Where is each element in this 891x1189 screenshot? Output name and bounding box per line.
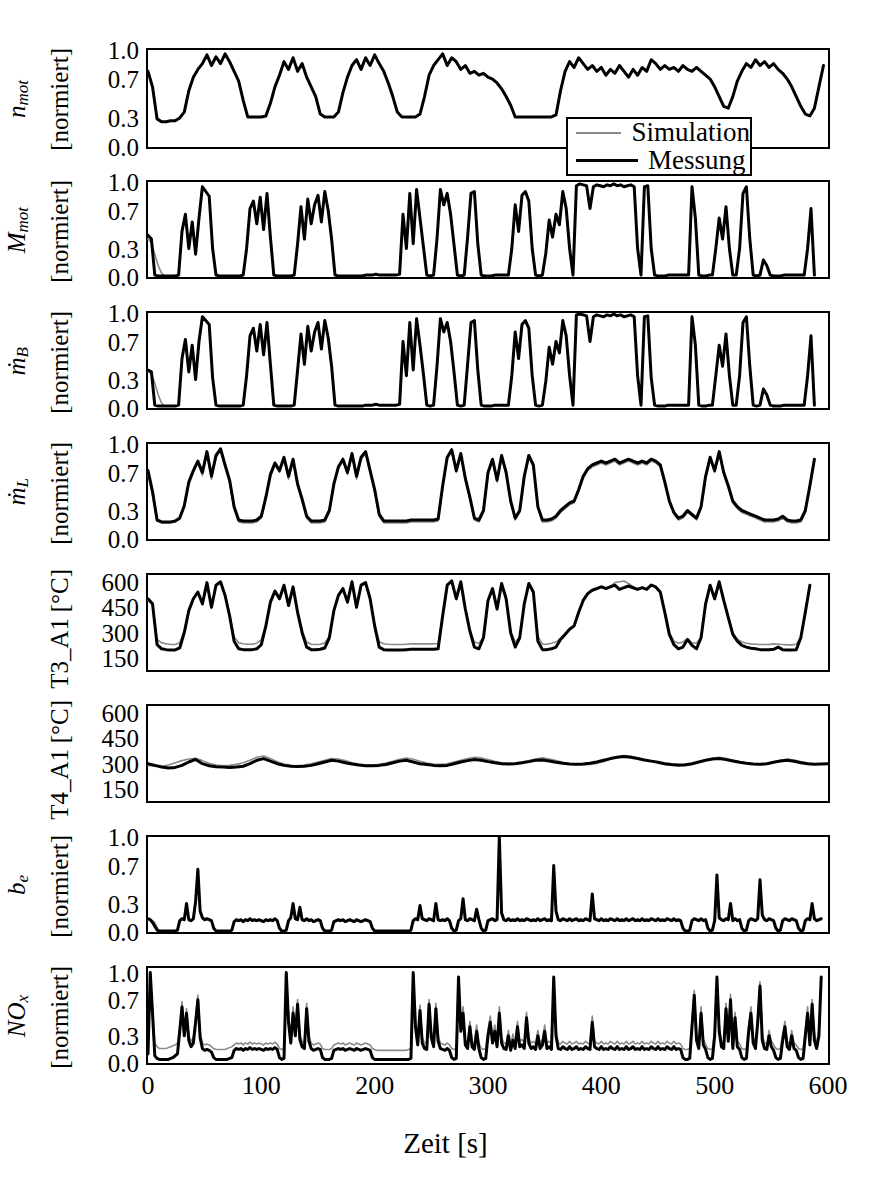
y-axis-quantity-label: NOx xyxy=(3,995,33,1037)
y-tick-label: 0.0 xyxy=(108,920,139,945)
y-tick-label: 0.3 xyxy=(108,105,139,130)
multi-panel-time-series-figure: 0.00.30.71.0[normiert]nmot0.00.30.71.0[n… xyxy=(0,0,891,1189)
panel-4: 0.00.30.71.0[normiert]ṁL xyxy=(146,442,830,541)
y-tick-label: 600 xyxy=(102,700,140,725)
panel-traces xyxy=(146,180,830,279)
y-axis-unit-label: [°C] xyxy=(46,569,74,612)
x-tick-label: 100 xyxy=(242,1071,281,1101)
y-tick-label: 0.7 xyxy=(108,198,139,223)
trace-messung xyxy=(148,837,821,931)
y-axis-quantity-label: T3_A1 xyxy=(46,618,74,689)
panel-traces xyxy=(146,573,830,672)
legend-label: Messung xyxy=(648,147,746,174)
y-axis-unit-label: [normiert] xyxy=(46,442,74,545)
y-tick-label: 1.0 xyxy=(108,38,139,63)
y-axis-unit-label: [normiert] xyxy=(46,966,74,1069)
trace-simulation xyxy=(148,54,823,122)
legend-entry: Simulation xyxy=(568,119,750,147)
panel-3: 0.00.30.71.0[normiert]ṁB xyxy=(146,311,830,410)
legend-entry: Messung xyxy=(568,147,750,175)
y-tick-label: 0.7 xyxy=(108,329,139,354)
y-axis-unit-label: [normiert] xyxy=(46,835,74,938)
y-tick-label: 0.0 xyxy=(108,396,139,421)
y-tick-label: 450 xyxy=(102,595,140,620)
y-tick-label: 0.7 xyxy=(108,853,139,878)
y-tick-label: 0.3 xyxy=(108,236,139,261)
y-tick-label: 1.0 xyxy=(108,960,139,985)
y-tick-label: 300 xyxy=(102,751,140,776)
legend-swatch xyxy=(576,159,638,162)
panel-5: 150300450600[°C]T3_A1 xyxy=(146,573,830,672)
y-tick-label: 0.0 xyxy=(108,1051,139,1076)
x-tick-label: 300 xyxy=(469,1071,508,1101)
y-tick-label: 1.0 xyxy=(108,432,139,457)
y-tick-label: 0.3 xyxy=(108,498,139,523)
trace-messung xyxy=(148,184,814,276)
y-axis-unit-label: [°C] xyxy=(46,700,74,743)
y-tick-label: 300 xyxy=(102,620,140,645)
y-tick-label: 0.7 xyxy=(108,67,139,92)
panel-traces xyxy=(146,442,830,541)
y-tick-label: 600 xyxy=(102,569,140,594)
legend-label: Simulation xyxy=(631,119,750,146)
y-tick-label: 0.0 xyxy=(108,265,139,290)
y-tick-label: 1.0 xyxy=(108,825,139,850)
panel-6: 150300450600[°C]T4_A1 xyxy=(146,704,830,803)
y-tick-label: 0.3 xyxy=(108,1023,139,1048)
trace-messung xyxy=(148,449,814,522)
y-tick-label: 150 xyxy=(102,777,140,802)
y-axis-unit-label: [normiert] xyxy=(46,48,74,151)
y-axis-quantity-label: ṁL xyxy=(3,478,33,506)
legend: SimulationMessung xyxy=(566,117,752,176)
x-tick-label: 200 xyxy=(355,1071,394,1101)
x-axis-title: Zeit [s] xyxy=(0,1127,891,1160)
y-axis-quantity-label: be xyxy=(3,875,33,895)
y-tick-label: 150 xyxy=(102,646,140,671)
x-axis-ticks: 0100200300400500600 xyxy=(146,1071,830,1105)
x-tick-label: 0 xyxy=(142,1071,155,1101)
y-axis-quantity-label: Mmot xyxy=(3,207,33,253)
y-tick-label: 0.3 xyxy=(108,891,139,916)
panel-traces xyxy=(146,704,830,803)
y-tick-label: 0.3 xyxy=(108,367,139,392)
y-tick-label: 0.7 xyxy=(108,460,139,485)
panel-traces xyxy=(146,311,830,410)
y-axis-quantity-label: ṁB xyxy=(3,347,33,375)
trace-messung xyxy=(148,757,828,768)
x-tick-label: 400 xyxy=(582,1071,621,1101)
panel-8: 0.00.30.71.0[normiert]NOx xyxy=(146,966,830,1065)
panel-7: 0.00.30.71.0[normiert]be xyxy=(146,835,830,934)
panel-2: 0.00.30.71.0[normiert]Mmot xyxy=(146,180,830,279)
y-tick-label: 0.0 xyxy=(108,135,139,160)
y-tick-label: 1.0 xyxy=(108,301,139,326)
trace-messung xyxy=(148,54,823,122)
x-tick-label: 600 xyxy=(809,1071,848,1101)
y-tick-label: 450 xyxy=(102,726,140,751)
panel-traces xyxy=(146,966,830,1065)
x-tick-label: 500 xyxy=(695,1071,734,1101)
y-axis-unit-label: [normiert] xyxy=(46,311,74,414)
y-axis-quantity-label: T4_A1 xyxy=(46,749,74,820)
trace-messung xyxy=(148,314,814,406)
trace-messung xyxy=(148,581,810,650)
y-tick-label: 0.7 xyxy=(108,987,139,1012)
legend-swatch xyxy=(576,132,621,134)
y-axis-quantity-label: nmot xyxy=(3,80,33,118)
y-axis-unit-label: [normiert] xyxy=(46,180,74,283)
y-tick-label: 0.0 xyxy=(108,527,139,552)
trace-messung xyxy=(148,973,821,1060)
y-tick-label: 1.0 xyxy=(108,170,139,195)
panel-traces xyxy=(146,835,830,934)
